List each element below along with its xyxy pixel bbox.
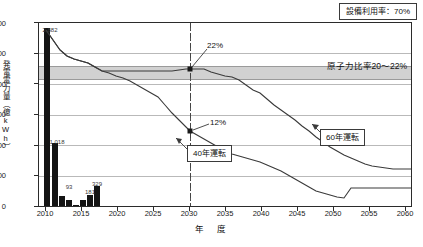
annotation-box-40-year-label: 40年運転 (193, 149, 226, 158)
marker-2030-40y (188, 129, 193, 134)
callout-22-percent: 22% (207, 41, 223, 50)
x-axis-title: 年 度 (0, 222, 423, 234)
y-tick-500: 500 (0, 171, 6, 180)
x-tick-2030: 2030 (169, 209, 209, 218)
curve-40-year (46, 30, 411, 198)
annotation-box-60-year-label: 60年運転 (326, 133, 359, 142)
x-tick-2035: 2035 (205, 209, 245, 218)
nuclear-ratio-band-label: 原子力比率20〜22% (327, 59, 407, 71)
x-tick-2055: 2055 (349, 209, 389, 218)
x-tick-2060: 2060 (385, 209, 423, 218)
y-tick-1000: 1,000 (0, 141, 6, 150)
annotation-box-60-year: 60年運転 (320, 129, 365, 146)
marker-2030-60y (188, 67, 193, 72)
chart-container: 設備利用率：70% 発電電力量（億kWh） 3,000 2,500 2,000 … (0, 0, 423, 247)
arrowhead-60y (312, 124, 319, 130)
y-tick-3000: 3,000 (0, 19, 6, 28)
y-tick-1500: 1,500 (0, 110, 6, 119)
x-tick-2025: 2025 (133, 209, 173, 218)
callout-12-percent: 12% (210, 118, 226, 127)
plot-inner: 2,882 1,018 93 181 329 (39, 23, 411, 206)
y-tick-2500: 2,500 (0, 49, 6, 58)
x-tick-2010: 2010 (25, 209, 65, 218)
y-tick-0: 0 (0, 202, 6, 211)
leader-12pct (193, 124, 209, 130)
series-overlay (39, 23, 411, 206)
y-tick-2000: 2,000 (0, 80, 6, 89)
annotation-box-40-year: 40年運転 (187, 145, 232, 162)
plot-area: 2,882 1,018 93 181 329 (38, 22, 412, 207)
capacity-factor-legend: 設備利用率：70% (339, 3, 417, 20)
capacity-factor-label: 設備利用率：70% (346, 7, 410, 16)
x-tick-2050: 2050 (313, 209, 353, 218)
leader-22pct (192, 49, 207, 67)
x-tick-2040: 2040 (241, 209, 281, 218)
y-axis-title: 発電電力量（億kWh） (0, 60, 10, 151)
x-tick-2020: 2020 (97, 209, 137, 218)
x-tick-2045: 2045 (277, 209, 317, 218)
x-tick-2015: 2015 (61, 209, 101, 218)
